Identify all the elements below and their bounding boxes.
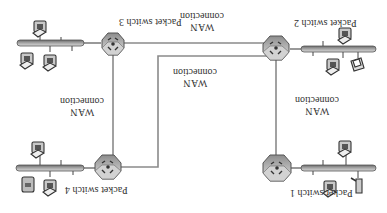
packet-switch-4-label: Packet switch 4 xyxy=(65,185,128,196)
packet-switch-3-icon[interactable] xyxy=(102,33,124,55)
wan-label-line1: WAN xyxy=(287,106,347,117)
packet-switch-2-icon[interactable] xyxy=(263,36,289,60)
packet-switch-1-icon[interactable] xyxy=(263,155,291,181)
wan-label-ps2-ps1: WAN connection xyxy=(287,95,347,117)
wan-label-ps3-ps4: WAN connection xyxy=(52,96,112,118)
packet-switch-1-label: Packet switch 1 xyxy=(290,188,353,199)
wan-label-line2: connection xyxy=(52,96,112,107)
wan-label-line1: WAN xyxy=(165,78,225,89)
terminal-icon xyxy=(351,58,364,71)
wan-label-line2: connection xyxy=(172,11,232,22)
wan-label-ps2-ps4: WAN connection xyxy=(165,67,225,89)
wan-label-ps3-ps2: WAN connection xyxy=(172,11,232,33)
server-icon xyxy=(22,177,34,192)
wan-label-line2: connection xyxy=(165,67,225,78)
wan-label-line2: connection xyxy=(287,95,347,106)
packet-switch-4-icon[interactable] xyxy=(95,155,121,179)
packet-switch-2-label: Packet switch 2 xyxy=(294,18,357,29)
wan-label-line1: WAN xyxy=(52,107,112,118)
wan-label-line1: WAN xyxy=(172,22,232,33)
